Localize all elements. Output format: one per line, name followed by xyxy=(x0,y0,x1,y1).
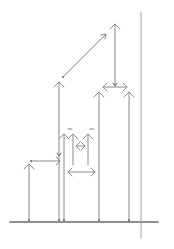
diagram-lines xyxy=(10,12,158,238)
arrow-origin-dot xyxy=(28,219,30,221)
diagonal-arrow-shaft xyxy=(63,34,106,77)
diagram-svg xyxy=(0,0,174,249)
arrow-origin-dot xyxy=(62,76,64,78)
arrow-origin-dot xyxy=(98,219,100,221)
arrow-origin-dot xyxy=(63,219,65,221)
arrow-origin-dot xyxy=(58,219,60,221)
arrow-origin-dot xyxy=(128,219,130,221)
arrow-origin-dot xyxy=(30,160,32,162)
arrow-diagram xyxy=(0,0,174,249)
